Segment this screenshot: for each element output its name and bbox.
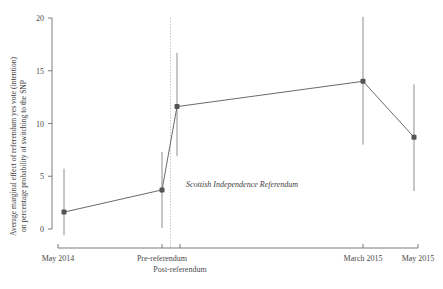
y-axis-title-line-2: on percentage probability of switching t… xyxy=(19,80,28,232)
x-tick-label-march-2015: March 2015 xyxy=(344,254,383,263)
y-tick-label-15: 15 xyxy=(36,67,44,76)
chart-figure: Average marginal effect of referendum ye… xyxy=(0,0,443,289)
data-point-pre-referendum xyxy=(160,187,165,192)
y-tick-label-20: 20 xyxy=(36,14,44,23)
x-tick-label-post-referendum: Post-referendum xyxy=(153,265,207,274)
x-tick-label-may-2014: May 2014 xyxy=(42,254,75,263)
referendum-annotation-label: Scottish Independence Referendum xyxy=(186,180,298,189)
data-point-may-2014 xyxy=(62,210,67,215)
x-tick-label-may-2015: May 2015 xyxy=(402,254,435,263)
chart-plot-area: Average marginal effect of referendum ye… xyxy=(0,0,443,289)
data-point-post-referendum xyxy=(175,104,180,109)
data-point-may-2015 xyxy=(412,135,417,140)
y-tick-label-10: 10 xyxy=(36,120,44,129)
x-tick-label-pre-referendum: Pre-referendum xyxy=(137,254,188,263)
y-axis-title-line-1: Average marginal effect of referendum ye… xyxy=(9,57,18,236)
series-line-average-marginal-effect xyxy=(64,81,414,212)
y-tick-label-0: 0 xyxy=(40,225,44,234)
y-tick-label-5: 5 xyxy=(40,172,44,181)
data-point-march-2015 xyxy=(361,79,366,84)
